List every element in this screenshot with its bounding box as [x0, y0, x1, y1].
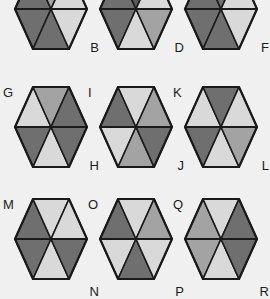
hexagon-cell-GH: GH [12, 84, 99, 174]
hexagon-label-top-G: G [3, 86, 13, 99]
hexagon-label-top-I: I [88, 86, 92, 99]
hexagon-tile [182, 196, 269, 286]
hexagon-cell-EF: EF [182, 0, 269, 56]
hexagon-tile [97, 84, 184, 174]
triangle-top-0 [100, 0, 136, 9]
hexagon-tile [12, 0, 99, 56]
hexagon-cell-QR: QR [182, 196, 269, 286]
hexagon-label-bottom-N: N [90, 285, 99, 298]
hexagon-tile [12, 196, 99, 286]
hexagon-label-bottom-P: P [175, 285, 184, 298]
hexagon-tile [12, 84, 99, 174]
triangle-top-2 [136, 0, 172, 9]
triangle-top-0 [185, 0, 221, 9]
hexagon-cell-MN: MN [12, 196, 99, 286]
hexagon-tile [97, 196, 184, 286]
hexagon-cell-AB: AB [12, 0, 99, 56]
hexagon-tile [97, 0, 184, 56]
hexagon-label-top-O: O [88, 198, 98, 211]
hexagon-cell-CD: CD [97, 0, 184, 56]
hexagon-cell-OP: OP [97, 196, 184, 286]
triangle-top-0 [15, 0, 51, 9]
hexagon-cell-KL: KL [182, 84, 269, 174]
hexagon-tile [182, 0, 269, 56]
hexagon-label-top-K: K [173, 86, 182, 99]
hexagon-label-bottom-L: L [262, 159, 269, 172]
hexagon-cell-IJ: IJ [97, 84, 184, 174]
hexagon-label-top-M: M [3, 198, 14, 211]
hexagon-label-bottom-R: R [260, 285, 269, 298]
triangle-top-2 [51, 0, 87, 9]
triangle-top-2 [221, 0, 257, 9]
hexagon-tile [182, 84, 269, 174]
hexagon-label-bottom-F: F [261, 41, 269, 54]
hexagon-label-top-Q: Q [173, 198, 183, 211]
